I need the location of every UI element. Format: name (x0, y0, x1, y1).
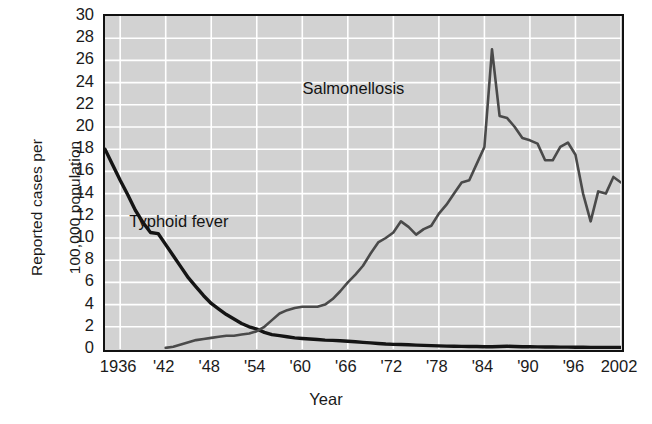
x-axis-tick: 2002 (601, 356, 638, 376)
x-axis-tick: '66 (335, 356, 357, 376)
y-axis-tick: 24 (54, 73, 94, 89)
x-axis-tick: '48 (198, 356, 220, 376)
y-axis-tick: 2 (54, 317, 94, 333)
x-axis-tick: '42 (153, 356, 175, 376)
y-axis-tick: 0 (54, 339, 94, 355)
x-axis-tick: '84 (472, 356, 494, 376)
y-axis-tick: 4 (54, 295, 94, 311)
x-axis-tick-labels: 1936'42'48'54'60'66'72'78'84'90'962002 (0, 356, 652, 382)
y-axis-tick: 28 (54, 28, 94, 44)
x-axis-tick: '96 (563, 356, 585, 376)
series-line-typhoid-fever (105, 149, 621, 347)
series-annotation: Typhoid fever (129, 212, 228, 231)
x-axis-tick: '72 (381, 356, 403, 376)
y-axis-tick: 20 (54, 117, 94, 133)
x-axis-tick: 1936 (100, 356, 137, 376)
y-axis-tick: 10 (54, 228, 94, 244)
x-axis-tick: '54 (244, 356, 266, 376)
y-axis-tick: 18 (54, 139, 94, 155)
x-axis-tick: '90 (517, 356, 539, 376)
y-axis-tick: 16 (54, 161, 94, 177)
y-axis-tick: 6 (54, 272, 94, 288)
x-axis-tick: '60 (290, 356, 312, 376)
y-axis-tick: 26 (54, 50, 94, 66)
y-axis-tick: 8 (54, 250, 94, 266)
x-axis-title: Year (0, 390, 652, 409)
chart-figure: Reported cases per 100,000 population 30… (0, 0, 652, 424)
series-annotation: Salmonellosis (303, 79, 405, 98)
y-axis-tick: 14 (54, 184, 94, 200)
plot-svg (105, 16, 621, 349)
plot-area (103, 14, 624, 352)
y-axis-title-line-1: Reported cases per (27, 78, 46, 338)
y-axis-tick: 12 (54, 206, 94, 222)
y-axis-tick: 22 (54, 95, 94, 111)
x-axis-tick: '78 (426, 356, 448, 376)
y-axis-tick: 30 (54, 6, 94, 22)
